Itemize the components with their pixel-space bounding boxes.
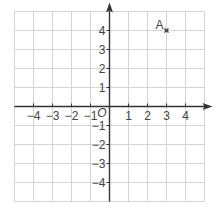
x-tick-label: −4 [27, 109, 41, 123]
point-label: A [155, 18, 163, 32]
y-tick-label: 2 [99, 62, 106, 76]
y-tick-label: 4 [99, 24, 106, 38]
y-tick-label: −2 [92, 138, 106, 152]
axes [15, 3, 213, 202]
x-tick-label: 4 [182, 109, 189, 123]
y-tick-label: −3 [92, 157, 106, 171]
y-tick-label: 1 [99, 81, 106, 95]
y-tick-label: 3 [99, 43, 106, 57]
x-tick-label: 2 [144, 109, 151, 123]
x-tick-label: 3 [163, 109, 170, 123]
x-tick-label: −3 [46, 109, 60, 123]
x-tick-label: −2 [65, 109, 79, 123]
x-tick-label: 1 [125, 109, 132, 123]
origin-label: O [97, 106, 106, 120]
coordinate-grid: −4−3−2−112344321−1−2−3−4O A [0, 0, 219, 210]
y-tick-label: −4 [92, 176, 106, 190]
y-tick-label: −1 [92, 119, 106, 133]
